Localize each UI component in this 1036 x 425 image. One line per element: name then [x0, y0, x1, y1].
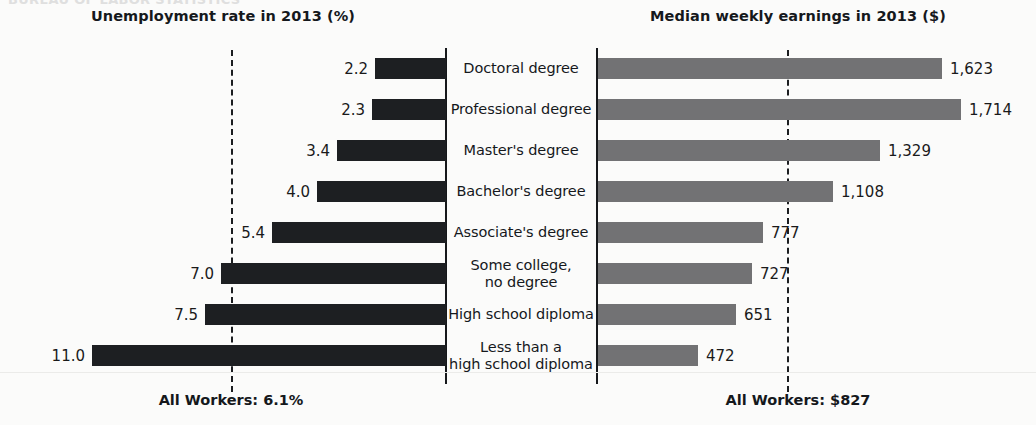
unemployment-value-label: 5.4 — [205, 223, 265, 243]
category-label: Doctoral degree — [448, 48, 594, 89]
right-panel-title: Median weekly earnings in 2013 ($) — [560, 8, 1036, 24]
chart-row: 4.0Bachelor's degree1,108 — [0, 171, 1036, 212]
unemployment-bar — [92, 345, 446, 366]
unemployment-bar — [205, 304, 446, 325]
unemployment-value-label: 2.3 — [305, 100, 365, 120]
chart-row: 2.2Doctoral degree1,623 — [0, 48, 1036, 89]
earnings-value-label: 777 — [771, 223, 800, 243]
earnings-value-label: 1,714 — [969, 100, 1012, 120]
earnings-value-label: 1,108 — [841, 182, 884, 202]
unemployment-bar — [372, 99, 446, 120]
unemployment-bar — [337, 140, 446, 161]
category-label: Bachelor's degree — [448, 171, 594, 212]
chart-canvas: BUREAU OF LABOR STATISTICS Unemployment … — [0, 0, 1036, 425]
category-label: Professional degree — [448, 89, 594, 130]
earnings-bar — [598, 222, 763, 243]
unemployment-value-label: 11.0 — [25, 346, 85, 366]
right-panel-footer: All Workers: $827 — [560, 392, 1036, 408]
category-label: High school diploma — [448, 294, 594, 335]
earnings-value-label: 472 — [706, 346, 735, 366]
unemployment-value-label: 2.2 — [308, 59, 368, 79]
unemployment-bar — [317, 181, 446, 202]
category-label: Associate's degree — [448, 212, 594, 253]
unemployment-value-label: 4.0 — [250, 182, 310, 202]
earnings-bar — [598, 140, 880, 161]
category-label: Some college,no degree — [448, 253, 594, 294]
chart-row: 7.0Some college,no degree727 — [0, 253, 1036, 294]
unemployment-bar — [272, 222, 446, 243]
earnings-bar — [598, 99, 961, 120]
earnings-bar — [598, 345, 698, 366]
chart-row: 2.3Professional degree1,714 — [0, 89, 1036, 130]
earnings-value-label: 1,329 — [888, 141, 931, 161]
chart-row: 5.4Associate's degree777 — [0, 212, 1036, 253]
unemployment-bar — [375, 58, 446, 79]
left-panel-title: Unemployment rate in 2013 (%) — [0, 8, 446, 24]
chart-row: 3.4Master's degree1,329 — [0, 130, 1036, 171]
unemployment-value-label: 3.4 — [270, 141, 330, 161]
earnings-bar — [598, 58, 942, 79]
chart-row: 11.0Less than ahigh school diploma472 — [0, 335, 1036, 376]
unemployment-value-label: 7.0 — [154, 264, 214, 284]
left-panel-footer: All Workers: 6.1% — [0, 392, 462, 408]
earnings-bar — [598, 263, 752, 284]
earnings-bar — [598, 304, 736, 325]
category-label: Master's degree — [448, 130, 594, 171]
scan-artifact-text: BUREAU OF LABOR STATISTICS — [8, 0, 240, 7]
earnings-value-label: 651 — [744, 305, 773, 325]
unemployment-bar — [221, 263, 446, 284]
earnings-value-label: 1,623 — [950, 59, 993, 79]
earnings-bar — [598, 181, 833, 202]
earnings-value-label: 727 — [760, 264, 789, 284]
unemployment-value-label: 7.5 — [138, 305, 198, 325]
scan-line — [0, 372, 1036, 373]
category-label: Less than ahigh school diploma — [448, 335, 594, 376]
chart-row: 7.5High school diploma651 — [0, 294, 1036, 335]
